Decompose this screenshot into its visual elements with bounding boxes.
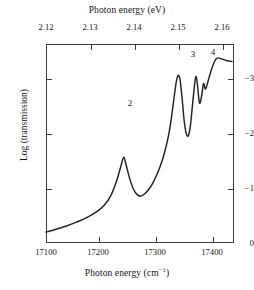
bottom-axis-title: Photon energy (cm−1) bbox=[0, 268, 254, 278]
peak-label-2: 2 bbox=[128, 98, 133, 108]
bottom-tick-label-17400: 17400 bbox=[201, 247, 222, 257]
bottom-tick-label-17300: 17300 bbox=[144, 247, 165, 257]
bottom-axis-title-exponent: −1 bbox=[159, 266, 166, 273]
bottom-tick-label-17200: 17200 bbox=[87, 247, 108, 257]
bottom-axis-title-prefix: Photon energy (cm bbox=[85, 268, 159, 278]
peak-label-3: 3 bbox=[191, 49, 196, 59]
spectrum-figure: Photon energy (eV) 2.12 2.13 2.14 2.15 2… bbox=[0, 0, 254, 290]
peak-label-4: 4 bbox=[211, 47, 216, 57]
spectrum-path bbox=[46, 58, 232, 232]
bottom-tick-label-17100: 17100 bbox=[35, 247, 56, 257]
bottom-axis-title-suffix: ) bbox=[166, 268, 169, 278]
